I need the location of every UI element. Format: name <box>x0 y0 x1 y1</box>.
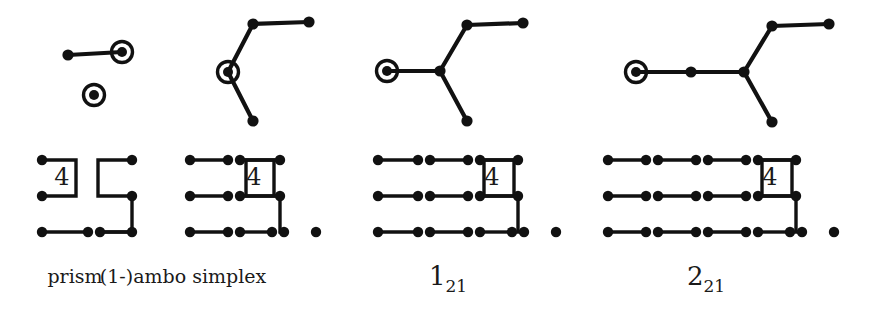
coxeter-node <box>691 191 701 201</box>
coxeter-node <box>507 227 517 237</box>
tree-node <box>434 65 445 76</box>
tree-node <box>738 66 749 77</box>
tree-node <box>517 17 528 28</box>
tree-node <box>247 115 258 126</box>
coxeter-node <box>373 191 383 201</box>
coxeter-node <box>373 227 383 237</box>
caption-prism: prism <box>47 265 102 287</box>
coxeter-node <box>653 191 663 201</box>
coxeter-node <box>275 191 285 201</box>
tree-node <box>303 16 314 27</box>
coxeter-node <box>641 155 651 165</box>
caption-subscript: 21 <box>445 276 467 296</box>
coxeter-node <box>311 227 321 237</box>
branch-label-4: 4 <box>484 163 499 191</box>
coxeter-node <box>753 191 763 201</box>
coxeter-node <box>413 155 423 165</box>
coxeter-node <box>223 227 233 237</box>
coxeter-node <box>785 227 795 237</box>
coxeter-node <box>551 227 561 237</box>
coxeter-node <box>475 227 485 237</box>
coxeter-node <box>413 227 423 237</box>
tree-node <box>766 20 777 31</box>
coxeter-node <box>413 191 423 201</box>
coxeter-node <box>741 155 751 165</box>
coxeter-node <box>223 155 233 165</box>
tree-node <box>685 66 696 77</box>
coxeter-node <box>463 155 473 165</box>
coxeter-node <box>741 191 751 201</box>
coxeter-node <box>691 227 701 237</box>
tree-node-ringed <box>89 90 99 100</box>
coxeter-node <box>603 155 613 165</box>
tree-node-ringed <box>382 66 392 76</box>
coxeter-node <box>691 155 701 165</box>
coxeter-node <box>603 227 613 237</box>
coxeter-node <box>463 191 473 201</box>
coxeter-node <box>373 155 383 165</box>
coxeter-node <box>797 227 807 237</box>
branch-label-4: 4 <box>246 163 261 191</box>
coxeter-node <box>235 191 245 201</box>
coxeter-node <box>425 191 435 201</box>
branch-label-4: 4 <box>762 163 777 191</box>
tree-edge <box>253 22 309 24</box>
caption-main: 1 <box>429 261 446 291</box>
coxeter-node <box>641 227 651 237</box>
coxeter-node <box>603 191 613 201</box>
coxeter-node <box>791 155 801 165</box>
caption-main: 2 <box>687 261 704 291</box>
coxeter-node <box>279 227 289 237</box>
tree-edge <box>467 23 523 25</box>
coxeter-node <box>703 155 713 165</box>
caption-main: (1-)ambo simplex <box>100 265 267 287</box>
tree-node <box>62 49 73 60</box>
branch-label-4: 4 <box>54 163 69 191</box>
caption-subscript: 21 <box>703 276 725 296</box>
figure-canvas: 4444 prism(1-)ambo simplex121221 <box>0 0 874 312</box>
coxeter-node <box>519 227 529 237</box>
caption-main: prism <box>47 265 102 287</box>
coxeter-node <box>127 155 137 165</box>
coxeter-node <box>223 191 233 201</box>
coxeter-node <box>513 191 523 201</box>
coxeter-node <box>653 155 663 165</box>
coxeter-node <box>829 227 839 237</box>
coxeter-node <box>235 227 245 237</box>
coxeter-node <box>37 227 47 237</box>
tree-node <box>247 18 258 29</box>
caption-ambo-simplex: (1-)ambo simplex <box>100 265 267 287</box>
coxeter-node <box>513 155 523 165</box>
tree-node-ringed <box>117 47 127 57</box>
coxeter-node <box>475 191 485 201</box>
coxeter-node <box>185 227 195 237</box>
coxeter-node <box>741 227 751 237</box>
coxeter-node <box>791 191 801 201</box>
coxeter-node <box>703 191 713 201</box>
coxeter-node <box>127 227 137 237</box>
tree-node-ringed <box>631 67 641 77</box>
coxeter-node <box>753 227 763 237</box>
coxeter-node <box>127 191 137 201</box>
coxeter-node <box>83 227 93 237</box>
coxeter-node <box>37 155 47 165</box>
coxeter-node <box>95 227 105 237</box>
coxeter-node <box>463 227 473 237</box>
tree-node <box>766 116 777 127</box>
coxeter-node <box>653 227 663 237</box>
coxeter-node <box>275 155 285 165</box>
coxeter-node <box>37 191 47 201</box>
tree-edge <box>772 24 829 26</box>
tree-node <box>461 115 472 126</box>
coxeter-node <box>641 191 651 201</box>
coxeter-node <box>425 227 435 237</box>
tree-node-ringed <box>223 67 233 77</box>
coxeter-node <box>703 227 713 237</box>
tree-node <box>823 18 834 29</box>
coxeter-node <box>267 227 277 237</box>
coxeter-diagram-figure: 4444 prism(1-)ambo simplex121221 <box>0 0 874 312</box>
tree-node <box>461 19 472 30</box>
coxeter-node <box>185 191 195 201</box>
coxeter-node <box>235 155 245 165</box>
tree-edge <box>68 52 122 55</box>
